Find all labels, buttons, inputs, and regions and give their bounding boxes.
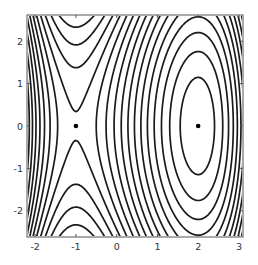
x-tick-label: 2: [195, 241, 201, 252]
critical-points: [74, 124, 201, 129]
y-tick-label: -1: [14, 163, 23, 174]
y-tick-label: -2: [14, 205, 23, 216]
x-tick-label: 3: [236, 241, 242, 252]
contour-line: [33, 15, 134, 237]
contour-line: [30, 15, 243, 237]
contour-lines: [27, 15, 243, 237]
contour-line: [161, 33, 228, 220]
x-tick-label: -1: [71, 241, 80, 252]
x-tick-label: 1: [154, 241, 160, 252]
x-tick-label: -2: [30, 241, 39, 252]
y-tick-label: 0: [17, 121, 23, 132]
contour-plot: -2-10123 -2-1012: [0, 0, 258, 265]
x-tick-label: 0: [114, 241, 120, 252]
y-tick-label: 2: [17, 36, 23, 47]
saddle-point: [74, 124, 79, 129]
minimum-point: [196, 124, 201, 129]
contour-line: [154, 17, 233, 235]
y-tick-label: 1: [17, 78, 23, 89]
contour-line: [41, 15, 121, 237]
contour-line: [45, 15, 113, 237]
